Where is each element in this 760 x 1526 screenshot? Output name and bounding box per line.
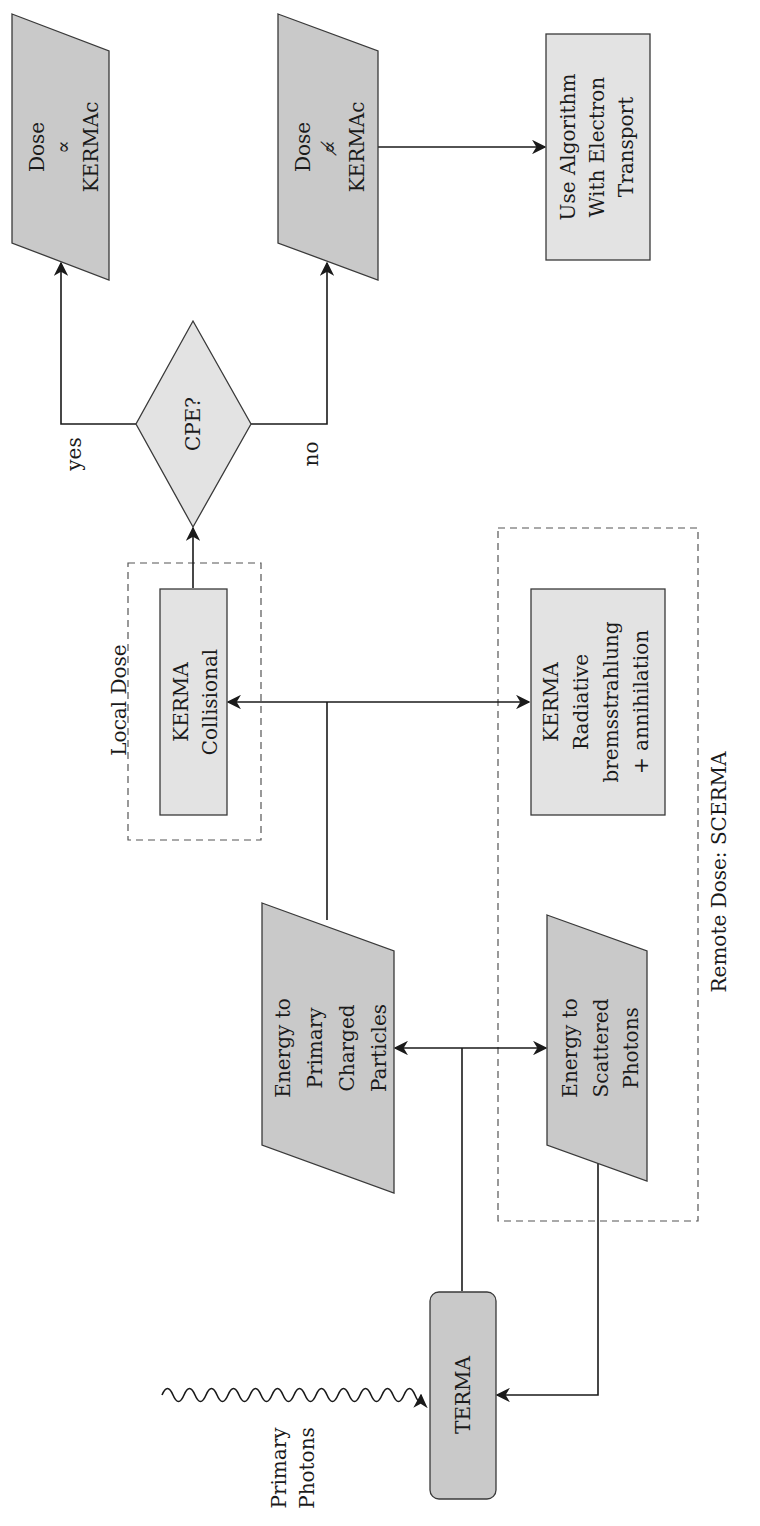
svg-text:Photons: Photons [619, 1007, 643, 1089]
svg-text:Charged: Charged [335, 1004, 359, 1091]
svg-text:Energy to: Energy to [271, 998, 295, 1097]
svg-text:Dose: Dose [25, 122, 49, 172]
node-energy-primary: Energy to Primary Charged Particles [262, 903, 394, 1193]
svg-text:Radiative: Radiative [569, 654, 593, 750]
local-dose-label: Local Dose [107, 644, 131, 755]
svg-text:With Electron: With Electron [585, 77, 609, 218]
svg-text:TERMA: TERMA [451, 1355, 475, 1433]
svg-text:Photons: Photons [295, 1427, 319, 1509]
node-dose-not-proportional: Dose ∝̸ KERMAc [278, 14, 378, 280]
edge-label-no: no [299, 442, 323, 467]
svg-text:Energy to: Energy to [558, 998, 582, 1097]
svg-text:KERMAc: KERMAc [79, 102, 103, 193]
svg-text:Collisional: Collisional [198, 649, 222, 755]
primary-photons-label: Primary Photons [267, 1427, 319, 1509]
svg-text:Dose: Dose [291, 122, 315, 172]
edges [61, 147, 598, 1402]
remote-dose-label: Remote Dose: SCERMA [707, 751, 731, 993]
svg-text:KERMAc: KERMAc [345, 102, 369, 193]
dose-flowchart: Local Dose Remote Dose: SCERMA Dose ∝ KE… [0, 0, 760, 1526]
node-kerma-collisional: KERMA Collisional [160, 589, 227, 815]
node-electron-transport: Use Algorithm With Electron Transport [546, 34, 650, 260]
node-cpe-decision: CPE? [136, 321, 251, 527]
svg-text:bremsstrahlung: bremsstrahlung [599, 621, 623, 782]
svg-text:KERMA: KERMA [169, 662, 193, 742]
node-terma: TERMA [430, 1292, 496, 1499]
node-kerma-radiative: KERMA Radiative bremsstrahlung + annihil… [531, 589, 665, 815]
svg-text:Primary: Primary [267, 1427, 291, 1509]
svg-text:CPE?: CPE? [181, 397, 205, 451]
node-dose-proportional: Dose ∝ KERMAc [12, 14, 109, 280]
svg-text:+ annihilation: + annihilation [629, 630, 653, 774]
svg-text:Scattered: Scattered [589, 998, 613, 1097]
svg-text:Transport: Transport [614, 97, 638, 197]
svg-text:Primary: Primary [303, 1007, 327, 1089]
svg-text:Use Algorithm: Use Algorithm [556, 74, 580, 221]
node-energy-scattered: Energy to Scattered Photons [547, 915, 647, 1181]
svg-text:∝: ∝ [51, 140, 75, 154]
svg-text:∝̸: ∝̸ [317, 140, 341, 156]
svg-text:KERMA: KERMA [539, 662, 563, 742]
svg-text:Particles: Particles [367, 1004, 391, 1092]
photon-wave-icon [162, 1389, 421, 1402]
edge-label-yes: yes [62, 437, 86, 471]
